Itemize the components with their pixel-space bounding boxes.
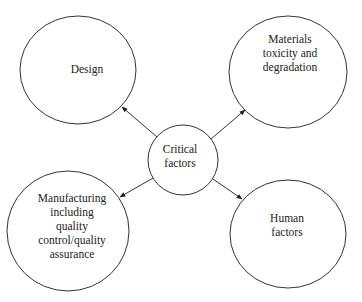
human-label-line: factors [270, 225, 304, 239]
manufacturing-label-line: quality [38, 219, 106, 233]
materials-label-line: Materials [263, 32, 318, 46]
critical-factors-label-line: factors [163, 156, 198, 170]
materials-label-line: degradation [263, 60, 318, 74]
arrow-to-materials [211, 110, 245, 139]
design-label: Design [71, 62, 104, 76]
design-label-line: Design [71, 62, 104, 76]
manufacturing-label-line: Manufacturing [38, 191, 106, 205]
manufacturing-label-line: assurance [38, 247, 106, 261]
arrow-to-manufacturing [120, 178, 153, 197]
manufacturing-label: Manufacturing including quality control/… [38, 191, 106, 261]
arrow-to-human [213, 179, 242, 199]
materials-label-line: toxicity and [263, 46, 318, 60]
human-label-line: Human [270, 211, 304, 225]
manufacturing-label-line: including [38, 205, 106, 219]
materials-label: Materials toxicity and degradation [263, 32, 318, 74]
human-label: Human factors [270, 211, 304, 239]
arrow-to-design [122, 107, 157, 137]
manufacturing-label-line: control/quality [38, 233, 106, 247]
critical-factors-label-line: Critical [163, 142, 198, 156]
critical-factors-label: Critical factors [163, 142, 198, 170]
